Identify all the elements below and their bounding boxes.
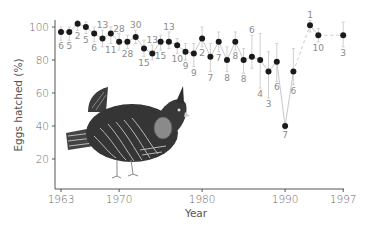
data-point [191,50,197,56]
y-tick-label: 80 [36,54,49,66]
sample-size-label: 15 [138,58,149,68]
sample-size-label: 8 [232,51,238,61]
sample-size-label: 2 [199,48,205,58]
data-point [241,57,247,63]
sample-size-label: 30 [130,20,142,30]
sample-size-label: 10 [313,43,325,53]
sample-size-label: 6 [58,41,64,51]
sample-size-label: 9 [191,68,197,78]
sample-size-label: 2 [75,31,81,41]
y-tick-label: 20 [36,153,49,165]
sample-size-label: 13 [97,20,108,30]
data-point [183,49,189,55]
chart-container: 20406080100 19631970198019901997 Year Eg… [0,0,369,233]
sample-size-label: 7 [216,53,222,63]
data-point [141,45,147,51]
data-point [124,39,130,45]
sample-size-label: 13 [163,22,174,32]
sample-size-label: 6 [249,25,255,35]
data-point [199,36,205,42]
series-line-segment [285,72,293,126]
sample-size-label: 10 [171,54,183,64]
data-point [58,29,64,35]
sample-size-label: 28 [113,24,125,34]
data-point [224,57,230,63]
data-point [290,69,296,75]
sample-size-label: 8 [224,73,230,83]
x-tick-label: 1990 [272,193,299,205]
data-point [166,39,172,45]
sample-size-label: 7 [208,73,214,83]
sample-size-label: 4 [257,89,263,99]
x-axis-ticks: 19631970198019901997 [48,189,357,205]
data-point [158,39,164,45]
y-tick-label: 100 [29,21,49,33]
data-point [266,69,272,75]
sample-size-label: 8 [241,74,247,84]
sample-size-label: 5 [66,41,72,51]
sample-size-label: 9 [183,61,189,71]
sample-size-label: 6 [91,43,97,53]
data-point [66,29,72,35]
y-axis-ticks: 20406080100 [29,21,55,165]
data-point [340,32,346,38]
data-point [282,123,288,129]
y-tick-label: 60 [36,87,49,99]
y-tick-label: 40 [36,120,49,132]
data-point [274,59,280,65]
x-tick-label: 1970 [106,193,133,205]
x-axis-title: Year [184,207,208,219]
sample-size-label: 5 [83,35,89,45]
sample-size-label: 6 [291,86,297,96]
data-point [91,31,97,37]
data-point [133,34,139,40]
data-point [257,57,263,63]
sample-size-label: 15 [155,51,166,61]
sample-size-label: 1 [307,10,313,20]
data-point [307,22,313,28]
sample-size-label: 3 [340,48,346,58]
data-point [83,24,89,30]
data-point [75,21,81,27]
data-point [100,36,106,42]
data-point [232,39,238,45]
eggs-hatched-chart: 20406080100 19631970198019901997 Year Eg… [0,0,369,233]
sample-size-label: 11 [105,45,116,55]
y-axis-title: Eggs hatched (%) [12,58,24,151]
series-line-segment [293,25,310,71]
sample-size-label: 6 [274,82,280,92]
sample-size-label: 3 [266,99,272,109]
x-tick-label: 1997 [330,193,357,205]
data-point [207,54,213,60]
x-tick-label: 1980 [189,193,216,205]
x-tick-label: 1963 [48,193,75,205]
data-point [216,39,222,45]
data-point [249,54,255,60]
data-point [174,42,180,48]
series-line-segment [277,62,285,126]
data-point [116,39,122,45]
prairie-chicken-illustration [66,86,190,178]
sample-size-label: 28 [122,49,134,59]
sample-size-label: 13 [147,35,158,45]
sample-size-label: 7 [282,130,288,140]
data-point [315,32,321,38]
